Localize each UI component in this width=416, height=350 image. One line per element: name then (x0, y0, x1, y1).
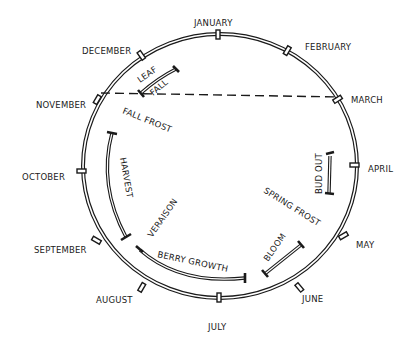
label-july: JULY (207, 322, 227, 332)
label-march: MARCH (351, 95, 383, 105)
label-june: JUNE (301, 294, 323, 304)
tick-july (217, 293, 221, 302)
label-january: JANUARY (193, 18, 233, 28)
tick-june (295, 283, 304, 292)
label-november: NOVEMBER (36, 100, 86, 110)
bud-out-bar (325, 152, 334, 194)
label-fall-frost: FALL FROST (121, 106, 174, 135)
tick-january (216, 30, 220, 39)
label-september: SEPTEMBER (34, 245, 87, 255)
label-december: DECEMBER (82, 46, 131, 56)
tick-august (138, 283, 146, 293)
tick-september (92, 236, 102, 244)
grapevine-annual-cycle-diagram: JANUARY FEBRUARY MARCH APRIL MAY JUNE JU… (0, 0, 416, 350)
label-berry-growth: BERRY GROWTH (157, 249, 229, 274)
label-october: OCTOBER (22, 172, 65, 182)
label-april: APRIL (368, 164, 393, 174)
label-february: FEBRUARY (305, 42, 352, 52)
tick-april (350, 163, 359, 167)
label-august: AUGUST (96, 295, 133, 305)
label-harvest: HARVEST (118, 157, 135, 200)
label-bud-out: BUD OUT (314, 153, 324, 194)
dormancy-divider-line (101, 93, 340, 97)
label-may: MAY (356, 240, 375, 250)
month-labels: JANUARY FEBRUARY MARCH APRIL MAY JUNE JU… (22, 18, 393, 332)
label-veraison: VERAISON (145, 196, 179, 239)
tick-october (77, 169, 86, 173)
